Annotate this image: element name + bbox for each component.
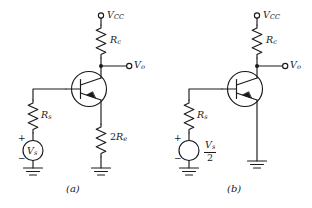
b-vs-denominator: 2 <box>204 153 216 163</box>
a-resistor-rs <box>28 100 38 133</box>
b-rc-label: Rc <box>266 35 277 46</box>
b-wire-base-corner <box>189 89 222 100</box>
caption-a: (a) <box>66 183 80 194</box>
b-ground-emitter <box>248 161 267 168</box>
a-rs-label: Rs <box>41 110 52 121</box>
b-ground-source <box>180 168 199 175</box>
b-vs-numerator: Vs <box>204 140 216 153</box>
caption-b: (b) <box>227 183 241 194</box>
a-resistor-2re <box>96 124 106 157</box>
b-vcc-label: VCC <box>263 10 280 21</box>
b-transistor-collector-slant <box>237 78 258 85</box>
a-wire-base-corner <box>33 89 66 100</box>
a-vo-terminal-node <box>127 63 132 68</box>
a-source-plus-sign: + <box>18 134 26 143</box>
a-resistor-rc <box>96 25 106 58</box>
a-ground-source <box>24 168 43 175</box>
a-rc-label: Rc <box>110 35 121 46</box>
b-vo-terminal-node <box>283 63 288 68</box>
a-ground-emitter <box>92 168 111 175</box>
a-transistor-collector-slant <box>81 78 102 85</box>
b-resistor-rs <box>184 100 194 133</box>
a-vcc-terminal-node <box>98 13 103 18</box>
circuit-schematic-svg <box>0 0 312 208</box>
a-vs-label: Vs <box>27 146 37 157</box>
b-rs-label: Rs <box>197 110 208 121</box>
b-source-plus-sign: + <box>174 134 182 143</box>
b-vs-over-2-label: Vs 2 <box>204 140 216 163</box>
b-voltage-source-symbol <box>179 141 199 161</box>
a-vo-label: Vo <box>134 60 145 71</box>
a-source-minus-sign: − <box>18 154 26 163</box>
b-resistor-rc <box>252 25 262 58</box>
b-vcc-terminal-node <box>254 13 259 18</box>
b-source-minus-sign: − <box>174 154 182 163</box>
a-2re-label: 2Re <box>110 132 127 143</box>
b-vo-label: Vo <box>290 60 301 71</box>
circuit-figure: VCC Rc Vo Rs + − Vs 2Re (a) VCC Rc Vo Rs… <box>0 0 312 208</box>
a-vcc-label: VCC <box>107 10 124 21</box>
